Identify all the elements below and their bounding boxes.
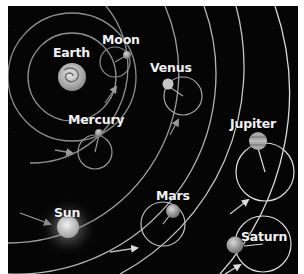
mars-icon bbox=[166, 204, 180, 218]
label-sun: Sun bbox=[54, 205, 80, 220]
label-venus: Venus bbox=[150, 60, 192, 75]
label-moon: Moon bbox=[102, 32, 140, 47]
mercury-icon bbox=[95, 129, 103, 137]
label-earth: Earth bbox=[53, 45, 90, 60]
label-saturn: Saturn bbox=[241, 229, 287, 244]
label-mars: Mars bbox=[156, 188, 190, 203]
jupiter-icon bbox=[249, 132, 267, 150]
mercury-arrow bbox=[55, 150, 72, 153]
jupiter-arrow bbox=[230, 200, 248, 214]
label-mercury: Mercury bbox=[68, 112, 124, 127]
venus-icon bbox=[163, 79, 174, 90]
moon-icon bbox=[123, 51, 131, 59]
geocentric-diagram: Earth Moon Venus Mercury Jupiter Sun Mar… bbox=[8, 6, 298, 274]
label-jupiter: Jupiter bbox=[230, 116, 276, 131]
moon-arrow bbox=[105, 87, 116, 103]
earth-icon bbox=[58, 63, 86, 91]
